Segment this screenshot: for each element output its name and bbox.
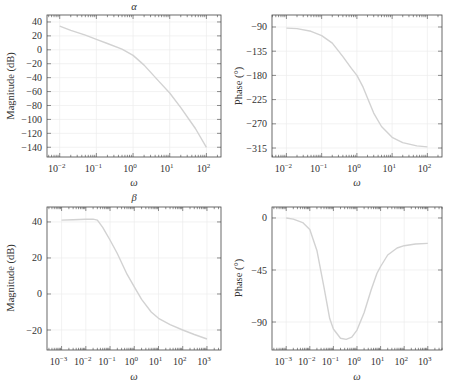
y-tick-label: −180 <box>246 70 267 81</box>
x-tick-label: 102 <box>197 162 211 174</box>
x-tick-label: 10−1 <box>322 355 340 367</box>
grid-lines <box>272 15 442 157</box>
y-axis-label: Magnitude (dB) <box>5 52 17 120</box>
x-tick-label: 101 <box>382 162 396 174</box>
x-tick-label: 10−1 <box>85 162 103 174</box>
y-tick-label: −140 <box>21 142 42 153</box>
beta-phase-plot: Phase (°) ω 0−45−9010−310−210−1100101102… <box>233 207 442 382</box>
alpha-phase-plot: Phase (°) ω −90−135−180−225−270−31510−21… <box>233 15 442 188</box>
x-tick-label: 101 <box>371 355 385 367</box>
x-tick-label: 10−2 <box>275 162 293 174</box>
y-axis-label: Phase (°) <box>233 258 245 297</box>
x-tick-label: 102 <box>418 162 432 174</box>
x-tick-label: 100 <box>123 162 137 174</box>
x-tick-label: 101 <box>160 162 174 174</box>
y-tick-label: −100 <box>21 114 42 125</box>
beta-magnitude-plot: β Magnitude (dB) ω 40200−2010−310−210−11… <box>5 192 221 382</box>
y-tick-label: −315 <box>246 143 267 154</box>
x-tick-label: 10−2 <box>298 355 316 367</box>
y-tick-label: −80 <box>26 100 42 111</box>
grid-lines <box>47 207 221 350</box>
x-tick-label: 100 <box>125 355 139 367</box>
y-tick-label: 0 <box>37 44 42 55</box>
y-tick-label: −120 <box>21 128 42 139</box>
bode-figure: α Magnitude (dB) ω 40200−20−40−60−80−100… <box>0 0 453 391</box>
y-tick-label: −20 <box>26 58 42 69</box>
y-axis-label: Magnitude (dB) <box>5 244 17 312</box>
x-tick-label: 101 <box>149 355 163 367</box>
plot-title: α <box>131 1 137 12</box>
x-axis-label: ω <box>353 177 360 188</box>
alpha-magnitude-plot: α Magnitude (dB) ω 40200−20−40−60−80−100… <box>5 1 221 188</box>
y-tick-label: −135 <box>246 46 267 57</box>
x-axis-label: ω <box>353 371 360 382</box>
y-tick-label: −60 <box>26 86 42 97</box>
x-tick-label: 100 <box>347 162 361 174</box>
y-tick-label: 40 <box>32 216 42 227</box>
plot-frame <box>47 15 221 157</box>
x-axis-label: ω <box>130 177 137 188</box>
x-tick-label: 102 <box>173 355 187 367</box>
y-tick-label: 20 <box>32 30 42 41</box>
y-tick-label: −90 <box>251 317 267 328</box>
y-tick-label: 40 <box>32 16 42 27</box>
x-tick-label: 103 <box>197 355 211 367</box>
x-tick-label: 10−3 <box>274 355 292 367</box>
plot-title: β <box>130 192 137 203</box>
axis-ticks <box>47 15 221 157</box>
x-tick-label: 10−2 <box>48 162 66 174</box>
x-tick-label: 10−1 <box>98 355 116 367</box>
y-tick-label: 0 <box>262 212 267 223</box>
y-tick-label: −45 <box>251 265 267 276</box>
x-tick-label: 103 <box>418 355 432 367</box>
x-tick-label: 10−3 <box>50 355 68 367</box>
y-tick-label: −20 <box>26 325 42 336</box>
y-tick-label: −270 <box>246 118 267 129</box>
y-tick-label: −40 <box>26 72 42 83</box>
y-tick-label: −225 <box>246 94 267 105</box>
x-axis-label: ω <box>130 371 137 382</box>
y-tick-label: 20 <box>32 252 42 263</box>
y-axis-label: Phase (°) <box>233 66 245 105</box>
x-tick-label: 10−1 <box>310 162 328 174</box>
x-tick-label: 102 <box>394 355 408 367</box>
y-tick-label: 0 <box>37 288 42 299</box>
grid-lines <box>47 15 221 157</box>
y-tick-label: −90 <box>251 21 267 32</box>
x-tick-label: 10−2 <box>74 355 92 367</box>
x-tick-label: 100 <box>347 355 361 367</box>
